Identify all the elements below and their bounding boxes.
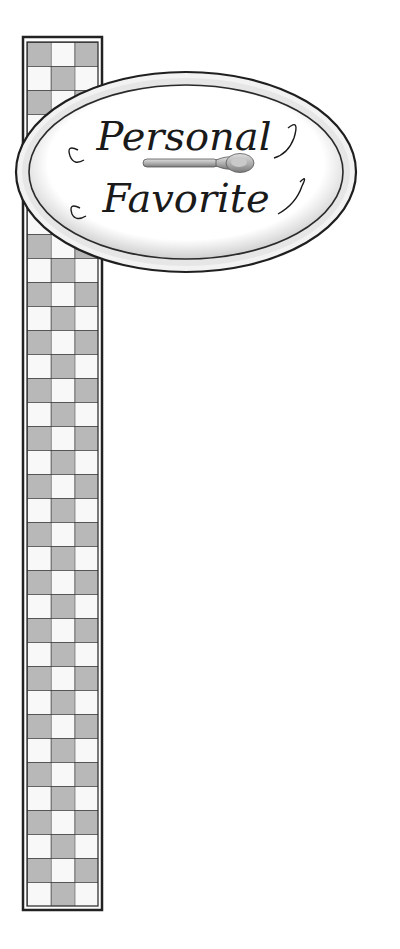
oval-sign: Personal Favorite	[16, 72, 356, 272]
personal-favorite-illustration: Personal Favorite	[0, 0, 400, 949]
sign-line-personal: Personal	[96, 113, 272, 159]
sign-line-favorite: Favorite	[101, 175, 269, 221]
